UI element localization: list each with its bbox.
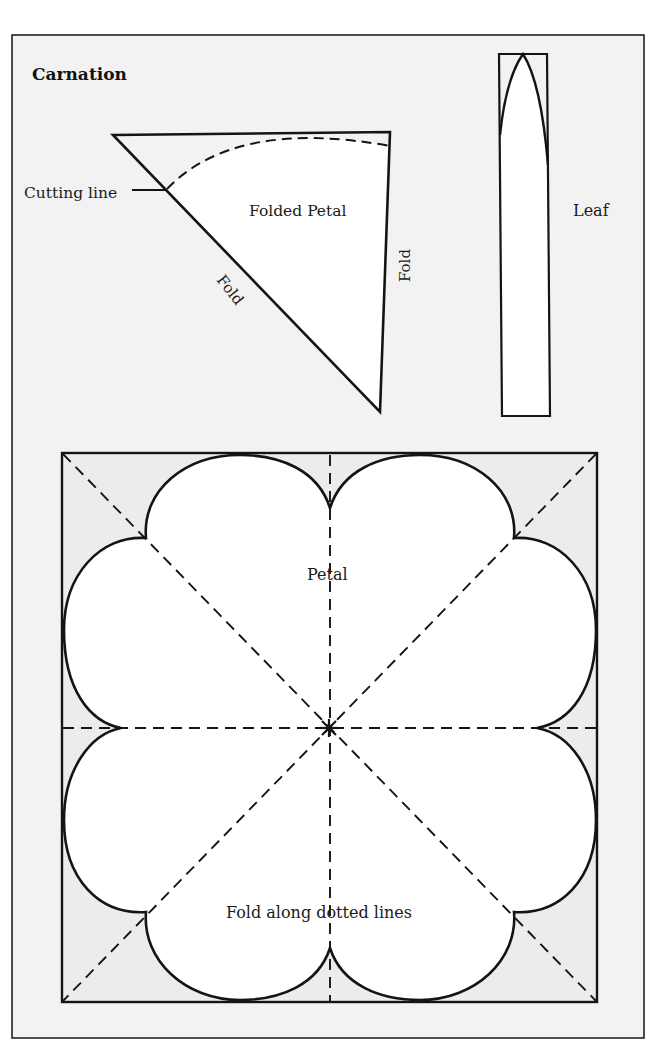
petal-pattern: Petal Fold along dotted lines: [62, 453, 597, 1002]
fold-label-vertical: Fold: [396, 249, 414, 282]
petal-label: Petal: [307, 565, 348, 584]
center-asterisk-icon: [320, 719, 338, 737]
cutting-line-label: Cutting line: [24, 184, 117, 202]
fold-instruction: Fold along dotted lines: [226, 903, 412, 922]
carnation-pattern-diagram: Carnation Cutting line Folded Petal Fold…: [0, 0, 652, 1063]
page-title: Carnation: [32, 64, 127, 84]
leaf-label: Leaf: [573, 201, 610, 220]
folded-petal-label: Folded Petal: [249, 202, 347, 220]
